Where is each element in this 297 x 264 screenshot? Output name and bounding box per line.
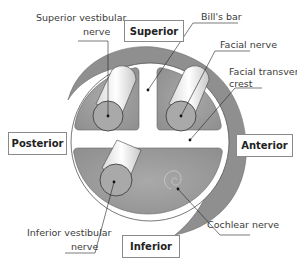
superior-vestibular-nerve-label-1: Superior vestibular [36, 12, 126, 24]
bills-bar-label: Bill's bar [201, 11, 242, 23]
facial-transverse-crest-label-1: Facial transverse [229, 66, 297, 78]
facial-transverse-crest-label-2: crest [229, 78, 252, 90]
inferior-quadrant [74, 148, 223, 214]
inferior-vestibular-nerve-label-1: Inferior vestibular [27, 227, 112, 239]
inferior-vestibular-nerve-label-2: nerve [71, 241, 98, 253]
posterior-box: Posterior [8, 132, 67, 155]
superior-box: Superior [124, 20, 184, 42]
cochlear-nerve-label: Cochlear nerve [207, 219, 279, 231]
facial-nerve-label: Facial nerve [220, 39, 277, 51]
inferior-box: Inferior [122, 235, 180, 258]
superior-vestibular-nerve-label-2: nerve [83, 26, 110, 38]
anterior-box: Anterior [236, 134, 293, 157]
